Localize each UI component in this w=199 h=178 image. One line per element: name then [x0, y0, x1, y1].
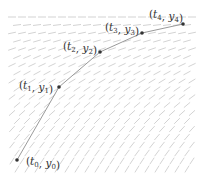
slope-segment: [174, 71, 181, 75]
slope-segment: [18, 48, 26, 51]
slope-segment: [139, 95, 145, 100]
slope-segment: [10, 142, 15, 148]
slope-segment: [64, 87, 71, 92]
slope-segment: [89, 126, 94, 132]
slope-segment: [45, 150, 50, 156]
slope-segment: [79, 79, 86, 83]
slope-segment: [155, 150, 160, 156]
slope-segment: [65, 166, 69, 173]
slope-segment: [184, 134, 189, 140]
slope-segment: [159, 79, 166, 83]
slope-segment: [109, 126, 114, 132]
slope-segment: [103, 55, 110, 58]
slope-segment: [89, 79, 96, 83]
slope-segment: [139, 110, 145, 115]
slope-segment: [43, 40, 51, 42]
slope-segment: [79, 126, 84, 132]
slope-segment: [184, 87, 191, 92]
slope-segment: [28, 63, 35, 66]
slope-segment: [103, 40, 111, 42]
slope-segment: [170, 158, 174, 165]
slope-segment: [119, 95, 125, 100]
slope-segment: [20, 142, 25, 148]
slope-segment: [120, 142, 125, 148]
slope-segment: [14, 71, 21, 75]
slope-segment: [94, 134, 99, 140]
slope-segment: [158, 63, 165, 66]
slope-segment: [118, 48, 126, 51]
slope-segment: [14, 118, 20, 124]
slope-segment: [24, 71, 31, 75]
slope-segment: [175, 166, 179, 173]
slope-segment: [183, 55, 190, 58]
slope-segment: [44, 71, 51, 75]
slope-segment: [113, 55, 120, 58]
slope-segment: [33, 55, 40, 58]
slope-segment: [65, 150, 70, 156]
slope-segment: [129, 79, 136, 83]
slope-segment: [134, 102, 140, 107]
slope-segment: [43, 55, 50, 58]
slope-segment: [104, 118, 110, 124]
slope-segment: [165, 166, 169, 173]
slope-segment: [54, 118, 60, 124]
slope-segment: [173, 55, 180, 58]
slope-segment: [79, 110, 85, 115]
slope-segment: [23, 55, 30, 58]
slope-segment: [54, 71, 61, 75]
slope-segment: [68, 32, 76, 34]
label-p0: (t0, y0): [26, 155, 60, 171]
slope-segment: [84, 102, 90, 107]
slope-segment: [163, 40, 171, 42]
slope-segment: [144, 134, 149, 140]
slope-segment: [140, 142, 145, 148]
slope-segment: [110, 142, 115, 148]
slope-segment: [9, 79, 16, 83]
slope-segment: [59, 126, 64, 132]
slope-segment: [53, 40, 61, 42]
slope-segment: [29, 95, 35, 100]
slope-segment: [144, 102, 150, 107]
slope-segment: [149, 110, 155, 115]
slope-segment: [189, 79, 196, 83]
slope-segment: [118, 63, 125, 66]
slope-segment: [175, 150, 180, 156]
slope-segment: [169, 79, 176, 83]
slope-segment: [129, 110, 135, 115]
slope-segment: [129, 126, 134, 132]
slope-segment: [73, 25, 81, 26]
slope-segment: [124, 134, 129, 140]
slope-segment: [40, 142, 45, 148]
slope-segment: [189, 110, 195, 115]
slope-segment: [133, 55, 140, 58]
diagram-canvas: (t0, y0)(t1, y1)(t2, y2)(t3, y3)(t4, y4): [0, 0, 199, 178]
euler-method-diagram: (t0, y0)(t1, y1)(t2, y2)(t3, y3)(t4, y4): [0, 0, 199, 178]
slope-segment: [85, 166, 89, 173]
slope-segment: [184, 102, 190, 107]
slope-segment: [170, 142, 175, 148]
slope-segment: [109, 95, 115, 100]
slope-segment: [13, 40, 21, 42]
slope-segment: [98, 63, 105, 66]
slope-segment: [125, 166, 129, 173]
slope-segment: [109, 110, 115, 115]
slope-segment: [8, 32, 16, 34]
slope-segment: [150, 158, 154, 165]
slope-segment: [180, 142, 185, 148]
slope-segment: [95, 150, 100, 156]
slope-segment: [75, 150, 80, 156]
slope-segment: [44, 118, 50, 124]
slope-segment: [8, 63, 15, 66]
slope-segment: [74, 87, 81, 92]
slope-segment: [23, 40, 31, 42]
slope-segment: [15, 166, 19, 173]
slope-segment: [108, 63, 115, 66]
slope-segment: [60, 158, 64, 165]
slope-segment: [154, 118, 160, 124]
slope-segment: [49, 126, 54, 132]
slope-segment: [105, 166, 109, 173]
slope-segment: [39, 95, 45, 100]
slope-segment: [148, 63, 155, 66]
slope-segment: [135, 166, 139, 173]
slope-segment: [69, 126, 74, 132]
